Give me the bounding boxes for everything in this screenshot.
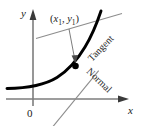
point-coordinate-label: (x1, y1) <box>50 13 80 27</box>
normal-label: Normal <box>85 66 115 95</box>
origin-label: 0 <box>27 107 33 119</box>
figure-svg: y x 0 (x1, y1) Tangent Normal <box>0 0 144 126</box>
y-axis-arrow-icon <box>30 9 37 20</box>
tangency-point-dot <box>72 63 79 70</box>
x-axis-label: x <box>127 104 133 116</box>
y-axis-label: y <box>20 7 26 19</box>
paren-close: ) <box>76 13 80 25</box>
callout-arrow <box>69 29 78 64</box>
callout-arrow-shaft <box>69 29 75 58</box>
tangent-normal-figure: y x 0 (x1, y1) Tangent Normal <box>0 0 144 126</box>
x-axis-arrow-icon <box>118 96 129 103</box>
